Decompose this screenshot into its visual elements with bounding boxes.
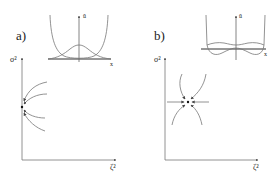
panel-a-inset-plot bbox=[48, 15, 111, 62]
panel-b-flow-line-top-left bbox=[180, 74, 185, 99]
panel-b-zeta-label: ζ² bbox=[253, 164, 259, 172]
panel-b-label: b) bbox=[154, 29, 165, 42]
panel-b-fixed-point bbox=[187, 101, 189, 103]
panel-a-flow-plot bbox=[21, 58, 116, 160]
panel-b-density-curve bbox=[207, 43, 264, 45]
panel-b-inset-y-label: ū bbox=[239, 13, 242, 19]
panel-b-sigma-label: σ² bbox=[154, 56, 161, 64]
panel-a-sigma-label: σ² bbox=[10, 56, 17, 64]
diagram-canvas bbox=[0, 0, 276, 181]
panel-b-flow-line-top-right bbox=[191, 74, 206, 99]
panel-a-flow-line-4 bbox=[24, 113, 45, 131]
panel-a-flow-line-3 bbox=[24, 110, 45, 118]
panel-b-inset-plot bbox=[201, 15, 266, 60]
panel-a-inset-y-label: ū bbox=[83, 13, 86, 19]
panel-b-inset-x-label: x bbox=[264, 51, 267, 57]
panel-b-flow-line-bottom-right bbox=[191, 105, 202, 125]
panel-b-flow-line-bottom-left bbox=[172, 105, 185, 125]
panel-a-fixed-point bbox=[21, 106, 23, 108]
panel-a-inset-x-label: x bbox=[110, 61, 113, 67]
panel-a-zeta-label: ζ² bbox=[110, 164, 116, 172]
panel-a-flow-line-1 bbox=[24, 82, 47, 101]
panel-a-label: a) bbox=[16, 29, 26, 42]
panel-b-flow-plot bbox=[165, 58, 258, 160]
panel-a-flow-line-2 bbox=[24, 94, 47, 104]
